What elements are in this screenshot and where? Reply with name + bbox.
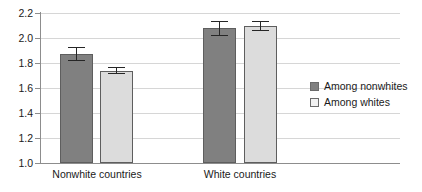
errorbar-cap-bottom: [108, 73, 125, 74]
x-axis-line: [40, 163, 400, 164]
errorbar-cap-bottom: [68, 60, 85, 61]
bar-white-countries-among-whites: [244, 26, 277, 164]
errorbar-cap-top: [68, 47, 85, 48]
legend-swatch-icon-among-nonwhites: [310, 82, 319, 91]
legend: Among nonwhites Among whites: [310, 79, 407, 111]
bar-chart: 2.2 2.0 1.8 1.6 1.4 1.2 1.0: [0, 0, 422, 192]
errorbar-cap-top: [108, 67, 125, 68]
errorbar-nonwhite-countries-among-whites: [108, 67, 125, 75]
errorbar-cap-top: [252, 21, 269, 22]
errorbar-cap-bottom: [211, 35, 228, 36]
errorbar-cap-bottom: [252, 30, 269, 31]
legend-swatch-icon-among-whites: [310, 98, 319, 107]
x-tick-label-white-countries: White countries: [179, 168, 301, 180]
errorbar-white-countries-among-nonwhites: [211, 21, 228, 36]
errorbar-stem: [76, 47, 77, 61]
errorbar-nonwhite-countries-among-nonwhites: [68, 47, 85, 61]
legend-label-among-whites: Among whites: [324, 97, 390, 108]
errorbar-stem: [219, 21, 220, 36]
y-tick-mark-1.0: [35, 163, 41, 164]
bar-white-countries-among-nonwhites: [203, 28, 236, 163]
legend-item-among-whites: Among whites: [310, 95, 407, 109]
x-tick-label-nonwhite-countries: Nonwhite countries: [36, 168, 158, 180]
legend-label-among-nonwhites: Among nonwhites: [324, 81, 407, 92]
errorbar-white-countries-among-whites: [252, 21, 269, 31]
bar-nonwhite-countries-among-whites: [100, 71, 133, 164]
errorbar-cap-top: [211, 21, 228, 22]
bar-nonwhite-countries-among-nonwhites: [60, 54, 93, 163]
legend-item-among-nonwhites: Among nonwhites: [310, 79, 407, 93]
